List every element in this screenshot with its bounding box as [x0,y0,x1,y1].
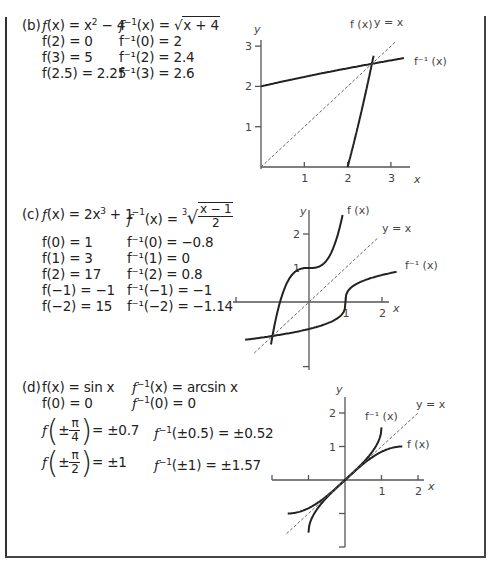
f-curve-label: f (x) [350,18,372,31]
f-inverse-curve-label: f⁻¹ (x) [414,55,447,68]
f-curve-label: f (x) [407,438,429,451]
x-tick-label: 2 [415,485,422,498]
x-axis-label: x [413,173,421,186]
x-axis-label: x [392,302,400,315]
identity-line [254,237,378,353]
f-inverse-curve-label: f⁻¹ (x) [405,259,438,272]
x-tick-label: 1 [301,172,308,185]
y-tick-label: 2 [245,80,252,93]
f-inverse-curve-label: f⁻¹ (x) [365,410,398,423]
y-axis-label: y [335,383,343,396]
identity-line [261,42,395,167]
x-axis-label: x [427,480,435,493]
f-inverse-curve [245,272,397,340]
x-tick-label: 2 [379,307,386,320]
f-curve-label: f (x) [347,204,369,217]
f-curve [348,56,374,167]
y-tick-label: 1 [245,121,252,134]
identity-line-label: y = x [382,222,412,235]
identity-line-label: y = x [374,16,404,29]
y-axis-label: y [253,23,261,36]
x-tick-label: 3 [388,172,395,185]
x-tick-label: 2 [345,172,352,185]
y-tick-label: 3 [245,40,252,53]
x-tick-label: 1 [379,485,386,498]
y-tick-label: 2 [293,228,300,241]
f-inverse-curve [261,58,404,86]
charts-layer: 123123yxf (x)f⁻¹ (x)y = x1212yxf (x)f⁻¹ … [0,0,496,568]
identity-line-label: y = x [416,398,446,411]
y-axis-label: y [299,205,307,218]
y-tick-label: 1 [329,441,336,454]
y-tick-label: 2 [329,407,336,420]
